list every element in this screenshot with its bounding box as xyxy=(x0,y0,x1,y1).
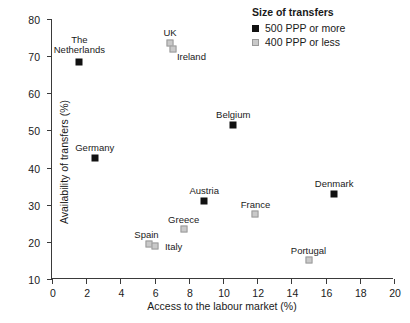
x-tick-label: 20 xyxy=(389,287,401,299)
data-point[interactable] xyxy=(201,198,208,205)
data-point[interactable] xyxy=(180,225,187,232)
data-point-label: UK xyxy=(163,28,176,39)
data-point[interactable] xyxy=(331,190,338,197)
y-tick-mark: 70 xyxy=(47,56,52,57)
legend-swatch-icon xyxy=(252,39,259,46)
x-tick-mark: 16 xyxy=(326,279,327,284)
x-tick-label: 10 xyxy=(218,287,230,299)
data-point-label: Spain xyxy=(134,230,158,241)
y-tick-label: 10 xyxy=(28,274,40,286)
data-point[interactable] xyxy=(91,155,98,162)
x-tick-mark: 18 xyxy=(360,279,361,284)
y-tick-mark: 80 xyxy=(47,19,52,20)
data-point-label: France xyxy=(241,200,271,211)
x-tick-label: 8 xyxy=(187,287,193,299)
data-point[interactable] xyxy=(230,121,237,128)
y-tick-label: 60 xyxy=(28,88,40,100)
data-point-label: Belgium xyxy=(216,110,250,121)
data-point[interactable] xyxy=(252,211,259,218)
x-tick-label: 18 xyxy=(355,287,367,299)
x-tick-mark: 8 xyxy=(189,279,190,284)
data-point-label: Italy xyxy=(165,242,182,253)
legend-swatch-icon xyxy=(252,25,259,32)
legend-entry[interactable]: 500 PPP or more xyxy=(252,22,345,34)
x-tick-label: 16 xyxy=(321,287,333,299)
x-tick-mark: 20 xyxy=(394,279,395,284)
y-axis-title: Availability of transfers (%) xyxy=(58,99,70,223)
x-tick-mark: 12 xyxy=(257,279,258,284)
x-tick-mark: 6 xyxy=(155,279,156,284)
x-axis-title: Access to the labour market (%) xyxy=(51,300,393,312)
x-tick-mark: 0 xyxy=(52,279,53,284)
data-point[interactable] xyxy=(305,257,312,264)
plot-area: 1020304050607080 02468101214161820 The N… xyxy=(51,19,393,279)
legend: Size of transfers 500 PPP or more400 PPP… xyxy=(252,6,345,48)
y-tick-label: 40 xyxy=(28,163,40,175)
x-tick-mark: 4 xyxy=(120,279,121,284)
scatter-chart-figure: 1020304050607080 02468101214161820 The N… xyxy=(0,0,410,323)
y-tick-mark: 60 xyxy=(47,93,52,94)
data-point[interactable] xyxy=(151,243,158,250)
x-tick-mark: 2 xyxy=(86,279,87,284)
data-point-label: Denmark xyxy=(315,179,354,190)
data-point[interactable] xyxy=(170,45,177,52)
x-tick-mark: 14 xyxy=(291,279,292,284)
data-point-label: Germany xyxy=(75,143,114,154)
x-tick-label: 14 xyxy=(287,287,299,299)
y-tick-mark: 30 xyxy=(47,205,52,206)
legend-entry[interactable]: 400 PPP or less xyxy=(252,36,345,48)
data-point[interactable] xyxy=(76,58,83,65)
x-tick-label: 4 xyxy=(118,287,124,299)
legend-entries: 500 PPP or more400 PPP or less xyxy=(252,22,345,48)
data-point-label: Austria xyxy=(189,186,219,197)
y-tick-mark: 40 xyxy=(47,168,52,169)
x-tick-label: 6 xyxy=(153,287,159,299)
data-point-label: Ireland xyxy=(177,52,206,63)
data-point-label: Greece xyxy=(168,215,199,226)
x-tick-label: 12 xyxy=(252,287,264,299)
x-tick-label: 2 xyxy=(84,287,90,299)
y-tick-label: 20 xyxy=(28,237,40,249)
y-tick-label: 50 xyxy=(28,125,40,137)
legend-entry-label: 500 PPP or more xyxy=(265,22,345,34)
y-tick-label: 80 xyxy=(28,14,40,26)
y-tick-mark: 20 xyxy=(47,242,52,243)
y-tick-label: 30 xyxy=(28,200,40,212)
data-point-label: The Netherlands xyxy=(54,35,105,56)
legend-entry-label: 400 PPP or less xyxy=(265,36,340,48)
data-point-label: Portugal xyxy=(291,246,326,257)
legend-title: Size of transfers xyxy=(252,6,345,18)
x-tick-mark: 10 xyxy=(223,279,224,284)
y-tick-label: 70 xyxy=(28,51,40,63)
x-tick-label: 0 xyxy=(50,287,56,299)
y-tick-mark: 50 xyxy=(47,130,52,131)
